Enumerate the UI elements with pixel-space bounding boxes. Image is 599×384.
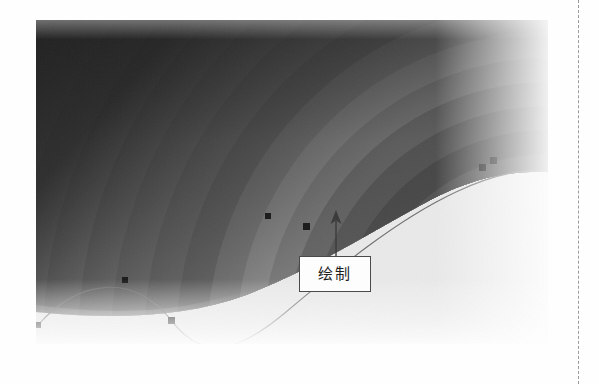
paper-grain: [36, 20, 548, 344]
callout-leader-arrow: [329, 210, 343, 258]
scanned-page: 绘制: [0, 0, 599, 384]
page-edge-dashed-rule: [578, 0, 579, 384]
annotation-callout-label: 绘制: [318, 267, 352, 282]
annotation-callout-box[interactable]: 绘制: [299, 256, 371, 292]
artwork-svg[interactable]: [36, 20, 548, 344]
artwork-figure[interactable]: [36, 20, 548, 344]
